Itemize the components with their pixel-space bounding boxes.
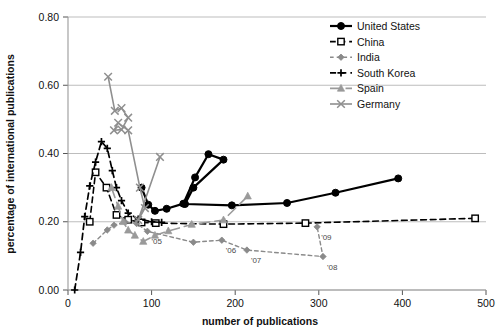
data-point-marker bbox=[395, 175, 402, 182]
legend-label: India bbox=[357, 51, 380, 63]
data-point-marker bbox=[153, 220, 159, 226]
x-tick-label: 100 bbox=[143, 297, 161, 309]
data-point-marker bbox=[314, 224, 320, 230]
data-point-marker bbox=[131, 231, 138, 238]
data-point-marker bbox=[302, 220, 308, 226]
x-tick-label: 400 bbox=[394, 297, 412, 309]
x-tick-label: 500 bbox=[477, 297, 495, 309]
x-tick-label: 0 bbox=[65, 297, 71, 309]
data-point-marker bbox=[192, 174, 199, 181]
data-point-marker bbox=[320, 253, 326, 259]
x-axis-title: number of publications bbox=[202, 315, 318, 327]
y-tick-label: 0.60 bbox=[39, 79, 60, 91]
data-point-marker bbox=[338, 38, 344, 44]
data-point-marker bbox=[151, 207, 158, 214]
legend-label: China bbox=[357, 36, 385, 48]
y-tick-label: 0.00 bbox=[39, 284, 60, 296]
series-line bbox=[108, 77, 160, 220]
y-tick-label: 0.40 bbox=[39, 147, 60, 159]
data-point-marker bbox=[182, 201, 189, 208]
data-point-marker bbox=[332, 189, 339, 196]
data-point-marker bbox=[244, 192, 251, 199]
data-point-marker bbox=[190, 239, 196, 245]
data-point-marker bbox=[77, 249, 84, 256]
scatter-line-chart: '05'06'07'08'09 0.000.200.400.600.800100… bbox=[0, 0, 497, 332]
series-united-states bbox=[138, 151, 402, 215]
data-point-marker bbox=[111, 222, 117, 228]
data-point-marker bbox=[220, 216, 227, 223]
data-point-marker bbox=[228, 202, 235, 209]
data-point-marker bbox=[190, 184, 197, 191]
chart-canvas: '05'06'07'08'09 0.000.200.400.600.800100… bbox=[0, 0, 497, 332]
data-point-marker bbox=[220, 156, 227, 163]
data-point-marker bbox=[244, 247, 250, 253]
data-point-marker bbox=[92, 158, 99, 165]
data-point-marker bbox=[338, 54, 344, 60]
x-tick-label: 200 bbox=[226, 297, 244, 309]
data-point-marker bbox=[284, 199, 291, 206]
y-tick-label: 0.80 bbox=[39, 11, 60, 23]
data-point-marker bbox=[472, 215, 478, 221]
year-annotation: '05 bbox=[151, 237, 162, 246]
data-point-marker bbox=[163, 205, 170, 212]
data-point-marker bbox=[125, 226, 132, 233]
tick-labels: 0.000.200.400.600.800100200300400500 bbox=[39, 11, 495, 309]
series-germany bbox=[104, 73, 163, 224]
chart-legend[interactable]: United StatesChinaIndiaSouth KoreaSpainG… bbox=[330, 20, 420, 110]
legend-label: Spain bbox=[357, 82, 384, 94]
data-point-marker bbox=[86, 182, 93, 189]
year-annotation: '07 bbox=[251, 256, 262, 265]
data-point-marker bbox=[156, 153, 164, 161]
data-point-marker bbox=[337, 69, 344, 76]
legend-label: South Korea bbox=[357, 67, 416, 79]
x-tick-label: 300 bbox=[310, 297, 328, 309]
year-annotation: '09 bbox=[321, 233, 332, 242]
axes bbox=[63, 17, 486, 295]
y-tick-label: 0.20 bbox=[39, 215, 60, 227]
data-point-marker bbox=[118, 104, 126, 112]
data-point-marker bbox=[338, 23, 345, 30]
legend-item-south-korea[interactable]: South Korea bbox=[330, 67, 416, 79]
data-point-marker bbox=[125, 210, 132, 217]
data-point-marker bbox=[109, 167, 116, 174]
legend-label: Germany bbox=[357, 98, 401, 110]
data-point-marker bbox=[113, 212, 119, 218]
series-line bbox=[111, 188, 247, 242]
data-point-marker bbox=[124, 114, 132, 122]
legend-item-china[interactable]: China bbox=[330, 36, 385, 48]
y-axis-title: percentage of international publications bbox=[4, 54, 16, 254]
legend-item-india[interactable]: India bbox=[330, 51, 380, 63]
gridlines bbox=[68, 17, 486, 290]
legend-item-united-states[interactable]: United States bbox=[330, 20, 420, 32]
data-series-layer bbox=[71, 73, 478, 294]
data-point-marker bbox=[205, 151, 212, 158]
year-annotation: '06 bbox=[226, 246, 237, 255]
legend-item-spain[interactable]: Spain bbox=[330, 82, 384, 94]
legend-label: United States bbox=[357, 20, 420, 32]
data-point-marker bbox=[118, 197, 125, 204]
data-point-marker bbox=[87, 219, 93, 225]
data-point-marker bbox=[219, 237, 225, 243]
legend-item-germany[interactable]: Germany bbox=[330, 98, 401, 110]
year-annotation: '08 bbox=[327, 263, 338, 272]
data-point-marker bbox=[71, 286, 78, 293]
series-line bbox=[90, 172, 475, 224]
